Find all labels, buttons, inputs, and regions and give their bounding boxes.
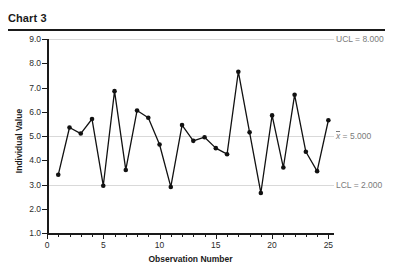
data-point — [169, 185, 174, 190]
data-point — [236, 69, 241, 74]
data-point — [56, 173, 61, 178]
data-point — [214, 146, 219, 151]
data-point — [292, 92, 297, 97]
data-point — [123, 168, 128, 173]
data-point — [90, 117, 95, 122]
data-point — [101, 183, 106, 188]
data-point — [67, 125, 72, 130]
data-point — [180, 123, 185, 128]
data-point — [326, 118, 331, 123]
data-point — [112, 89, 117, 94]
series-line — [58, 72, 328, 193]
chart-plot-area: UCL = 8.000 x = 5.000 LCL = 2.000 1.0 2.… — [0, 0, 393, 275]
series-layer — [0, 0, 393, 275]
control-chart-card: Chart 3 UCL = 8.000 x = 5.000 LCL = 2.00… — [0, 0, 393, 275]
data-point — [191, 139, 196, 144]
data-point — [304, 149, 309, 154]
data-point — [247, 130, 252, 135]
data-point — [202, 135, 207, 140]
data-point — [157, 142, 162, 147]
data-point — [259, 191, 264, 196]
data-point — [225, 152, 230, 157]
data-point — [281, 165, 286, 170]
data-point — [146, 116, 151, 121]
data-point — [78, 131, 83, 136]
data-point — [270, 113, 275, 118]
data-point — [315, 169, 320, 174]
data-point-markers — [56, 69, 331, 195]
data-point — [135, 108, 140, 113]
